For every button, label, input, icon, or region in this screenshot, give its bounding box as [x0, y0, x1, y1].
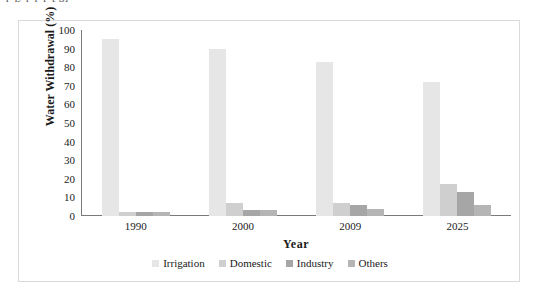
bar-domestic-1990[interactable] — [119, 212, 136, 216]
bar-group — [82, 30, 189, 216]
legend-item-others[interactable]: Others — [348, 257, 388, 269]
legend-item-label: Irrigation — [163, 257, 205, 269]
y-axis-tick-label: 100 — [59, 25, 76, 36]
bar-industry-2025[interactable] — [457, 192, 474, 216]
bar-group-bars — [423, 30, 491, 216]
legend-item-domestic[interactable]: Domestic — [219, 257, 272, 269]
legend-swatch-icon — [348, 260, 355, 267]
figure-caption-truncated: pqy p p p [ g] — [0, 0, 538, 9]
x-axis-tick-label: 2025 — [404, 220, 511, 232]
figure-caption-text: pqy p p p [ g] — [6, 0, 68, 2]
bar-industry-2000[interactable] — [243, 210, 260, 216]
bar-group-bars — [316, 30, 384, 216]
legend-swatch-icon — [286, 260, 293, 267]
bar-others-2009[interactable] — [367, 209, 384, 216]
legend-item-irrigation[interactable]: Irrigation — [152, 257, 205, 269]
legend-swatch-icon — [152, 260, 159, 267]
y-axis-tick-label: 80 — [64, 62, 75, 73]
y-axis-title: Water Withdrawal (%) — [43, 0, 58, 142]
x-axis-tick-label: 2000 — [189, 220, 296, 232]
bar-irrigation-1990[interactable] — [102, 39, 119, 216]
y-axis-tick-label: 0 — [70, 211, 76, 222]
legend-item-industry[interactable]: Industry — [286, 257, 334, 269]
bar-others-1990[interactable] — [153, 212, 170, 216]
bar-group-bars — [209, 30, 277, 216]
legend-swatch-icon — [219, 260, 226, 267]
legend-item-label: Others — [359, 257, 388, 269]
bar-industry-2009[interactable] — [350, 205, 367, 216]
legend-item-label: Industry — [297, 257, 334, 269]
y-axis-tick-label: 90 — [64, 43, 75, 54]
bar-industry-1990[interactable] — [136, 212, 153, 216]
bar-group — [404, 30, 511, 216]
y-axis-tick-label: 50 — [64, 118, 75, 129]
x-axis-tick-labels: 1990200020092025 — [82, 220, 511, 232]
y-axis-tick-label: 20 — [64, 173, 75, 184]
bar-irrigation-2000[interactable] — [209, 49, 226, 216]
chart-figure-frame: Water Withdrawal (%) 1009080706050403020… — [18, 20, 520, 282]
bar-group-bars — [102, 30, 170, 216]
legend-item-label: Domestic — [230, 257, 272, 269]
y-axis-tick-label: 40 — [64, 136, 75, 147]
bar-irrigation-2009[interactable] — [316, 62, 333, 216]
y-axis-tick-label: 70 — [64, 80, 75, 91]
y-axis-tick-label: 30 — [64, 155, 75, 166]
chart-legend: IrrigationDomesticIndustryOthers — [19, 257, 521, 269]
bar-groups — [82, 30, 511, 216]
y-axis-tick-label: 60 — [64, 99, 75, 110]
bar-others-2000[interactable] — [260, 210, 277, 216]
bar-others-2025[interactable] — [474, 205, 491, 216]
bar-domestic-2000[interactable] — [226, 203, 243, 216]
bar-group — [297, 30, 404, 216]
plot-area: 1009080706050403020100 — [81, 30, 511, 216]
bar-domestic-2009[interactable] — [333, 203, 350, 216]
bar-irrigation-2025[interactable] — [423, 82, 440, 216]
x-axis-title: Year — [81, 237, 511, 252]
x-axis-tick-label: 1990 — [82, 220, 189, 232]
bar-group — [189, 30, 296, 216]
bar-domestic-2025[interactable] — [440, 184, 457, 216]
y-axis-tick-label: 10 — [64, 192, 75, 203]
x-axis-tick-label: 2009 — [297, 220, 404, 232]
